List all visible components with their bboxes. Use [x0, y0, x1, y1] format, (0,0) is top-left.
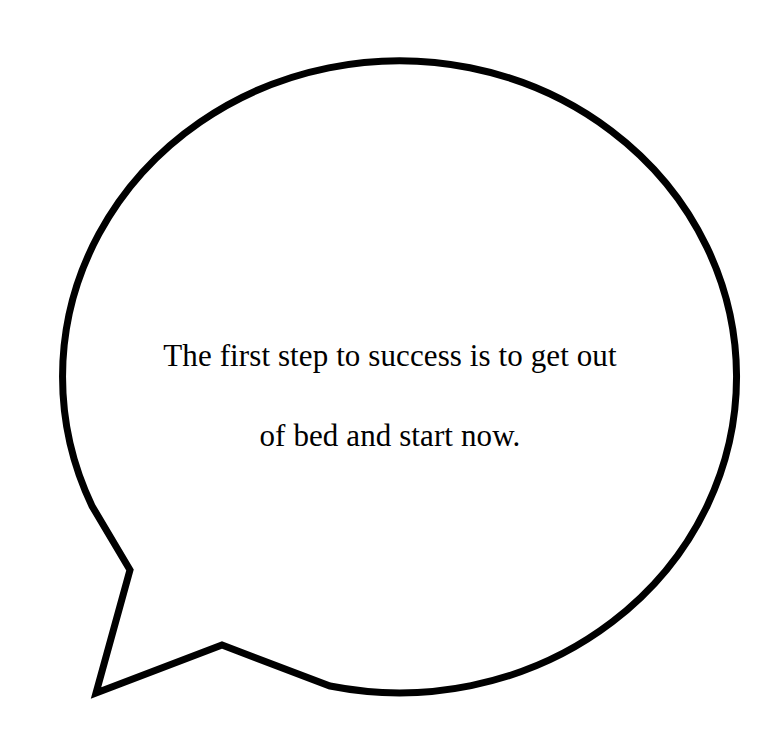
quote-text-block: The first step to success is to get out … [150, 296, 630, 496]
quote-line-2: of bed and start now. [150, 416, 630, 456]
quote-line-1: The first step to success is to get out [150, 336, 630, 376]
speech-bubble-canvas: The first step to success is to get out … [0, 0, 779, 742]
